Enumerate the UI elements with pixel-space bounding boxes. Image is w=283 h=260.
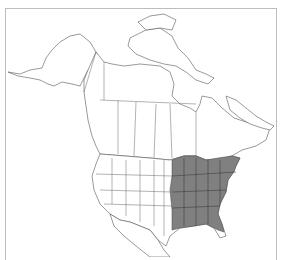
species-range	[170, 156, 240, 232]
arctic-islands-north	[138, 14, 176, 30]
